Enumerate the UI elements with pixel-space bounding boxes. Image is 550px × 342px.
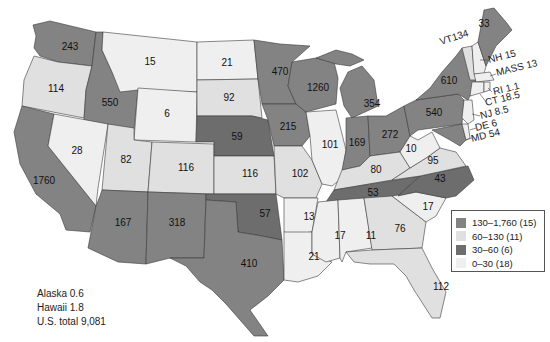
label-il: 101 <box>322 139 339 150</box>
legend-item: 30–60 (6) <box>456 243 540 257</box>
label-in: 169 <box>349 137 366 148</box>
legend-item: 0–30 (18) <box>456 257 540 271</box>
label-mo: 102 <box>292 168 309 179</box>
label-nd: 21 <box>221 57 233 68</box>
legend-item: 130–1,760 (15) <box>456 216 540 230</box>
legend-item: 60–130 (11) <box>456 230 540 244</box>
note-us-total: U.S. total 9,081 <box>37 315 106 329</box>
state-new-jersey <box>462 100 474 124</box>
state-michigan <box>340 66 378 118</box>
label-mn: 470 <box>272 66 289 77</box>
label-sc: 17 <box>422 201 434 212</box>
label-az: 167 <box>115 217 132 228</box>
legend-swatch-icon <box>456 231 466 241</box>
label-ne: 59 <box>231 131 243 142</box>
legend-swatch-icon <box>456 218 466 228</box>
label-nm: 318 <box>169 217 186 228</box>
state-new-mexico <box>146 192 206 264</box>
map-legend: 130–1,760 (15) 60–130 (11) 30–60 (6) 0–3… <box>451 210 545 272</box>
label-mi: 354 <box>364 98 381 109</box>
legend-swatch-icon <box>456 245 466 255</box>
label-or: 114 <box>48 83 64 94</box>
label-nv: 28 <box>71 145 83 156</box>
label-ia: 215 <box>280 121 297 132</box>
label-fl: 112 <box>433 281 449 292</box>
label-nc: 43 <box>434 173 446 184</box>
label-ut: 82 <box>120 154 132 165</box>
state-massachusetts <box>474 72 494 82</box>
label-wa: 243 <box>62 41 79 52</box>
label-va: 95 <box>427 155 439 166</box>
label-ga: 76 <box>394 223 406 234</box>
label-la: 21 <box>308 251 320 262</box>
note-alaska: Alaska 0.6 <box>37 287 106 301</box>
label-co: 116 <box>178 162 194 173</box>
label-me: 33 <box>478 18 490 29</box>
label-ca: 1760 <box>33 175 56 186</box>
label-wy: 6 <box>164 108 170 119</box>
label-wv: 10 <box>405 143 417 154</box>
state-connecticut <box>470 82 484 96</box>
label-ny: 610 <box>441 75 458 86</box>
label-al: 11 <box>366 230 377 241</box>
label-ks: 116 <box>242 168 258 179</box>
label-mt: 15 <box>144 56 156 67</box>
map-notes: Alaska 0.6 Hawaii 1.8 U.S. total 9,081 <box>37 287 106 329</box>
label-ky: 80 <box>370 164 382 175</box>
callout-vt: VT134 <box>438 27 470 47</box>
note-hawaii: Hawaii 1.8 <box>37 301 106 315</box>
label-sd: 92 <box>223 92 235 103</box>
state-florida <box>346 248 446 318</box>
state-rhode-island <box>484 82 490 92</box>
label-tn: 53 <box>367 187 379 198</box>
label-ok: 57 <box>259 208 271 219</box>
label-wi: 1260 <box>307 82 330 93</box>
label-id: 550 <box>102 97 119 108</box>
label-tx: 410 <box>241 258 258 269</box>
legend-swatch-icon <box>456 258 466 268</box>
legend-label: 0–30 (18) <box>472 258 513 269</box>
legend-label: 130–1,760 (15) <box>472 217 536 228</box>
legend-label: 60–130 (11) <box>472 231 523 242</box>
label-oh: 272 <box>382 129 399 140</box>
label-pa: 540 <box>426 107 443 118</box>
label-ms: 17 <box>334 230 346 241</box>
label-ar: 13 <box>303 211 315 222</box>
legend-label: 30–60 (6) <box>472 244 513 255</box>
